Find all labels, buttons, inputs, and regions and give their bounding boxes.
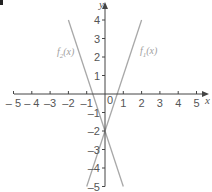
x-tick-label: 1	[120, 97, 126, 109]
y-tick-label: –5	[88, 181, 100, 192]
x-tick-label: 2	[139, 97, 145, 109]
function-label-f1x: f1(x)	[140, 45, 158, 59]
function-labels: f1(x)f2(x)	[57, 45, 158, 60]
origin-label: 0	[107, 94, 113, 106]
x-tick-label: 4	[175, 97, 181, 109]
y-tick-label: 4	[94, 14, 100, 26]
y-tick-label: 3	[94, 33, 100, 45]
function-graph: xy – 5– 4–3–2–1123450 4321–1–2–3–4–5 f1(…	[0, 0, 212, 191]
y-tick-label: 2	[94, 51, 100, 63]
y-tick-label: –2	[88, 125, 100, 137]
x-axis-label: x	[204, 94, 210, 106]
function-label-f2x: f2(x)	[57, 46, 75, 60]
x-tick-label: – 4	[24, 97, 39, 109]
y-tick-label: 1	[94, 70, 100, 82]
y-tick-label: –1	[88, 107, 100, 119]
y-tick-label: –3	[88, 144, 100, 156]
y-tick-label: –4	[88, 162, 100, 174]
x-tick-label: 3	[157, 97, 163, 109]
x-tick-label: –3	[44, 97, 56, 109]
x-tick-label: – 5	[6, 97, 21, 109]
x-tick-label: 5	[193, 97, 199, 109]
x-tick-label: –2	[62, 97, 74, 109]
y-axis-label: y	[98, 0, 104, 10]
